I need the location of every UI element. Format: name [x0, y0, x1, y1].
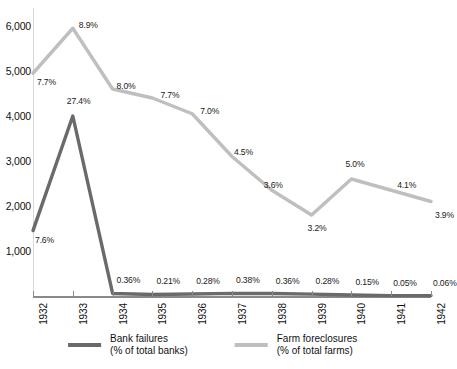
x-axis-tick-mark: [391, 291, 392, 296]
bank-data-label: 0.28%: [316, 276, 340, 286]
farm-data-label: 3.9%: [435, 210, 454, 220]
x-axis-tick-mark: [113, 291, 114, 296]
x-axis-tick-mark: [272, 291, 273, 296]
x-axis-tick: 1938: [277, 303, 288, 325]
x-axis-tick-mark: [152, 291, 153, 296]
legend-item[interactable]: Farm foreclosures(% of total farms): [235, 333, 358, 358]
legend-color-swatch: [68, 343, 101, 347]
x-axis-tick: 1934: [118, 303, 129, 325]
bank-data-label: 0.38%: [236, 275, 260, 285]
x-axis-tick-mark: [312, 291, 313, 296]
x-axis-tick-mark: [351, 291, 352, 296]
legend-color-swatch: [235, 343, 268, 347]
farm-data-label: 7.7%: [37, 77, 56, 87]
farm-data-label: 4.1%: [397, 180, 416, 190]
x-axis-tick-mark: [431, 291, 432, 296]
bank-data-label: 0.06%: [433, 278, 457, 288]
bank-data-label: 0.36%: [276, 276, 300, 286]
farm-data-label: 8.9%: [79, 20, 98, 30]
farm-data-label: 3.2%: [308, 223, 327, 233]
x-axis-tick: 1935: [157, 303, 168, 325]
bank-data-label: 7.6%: [35, 235, 54, 245]
x-axis-tick: 1932: [38, 303, 49, 325]
legend-series-unit: (% of total farms): [277, 345, 358, 357]
legend-label: Bank failures(% of total banks): [110, 333, 188, 358]
bank-data-label: 0.15%: [355, 277, 379, 287]
x-axis-tick-mark: [73, 291, 74, 296]
x-axis-tick: 1937: [237, 303, 248, 325]
farm-data-label: 8.0%: [117, 81, 136, 91]
farm-data-label: 4.5%: [234, 147, 253, 157]
chart-legend: Bank failures(% of total banks)Farm fore…: [0, 333, 438, 369]
legend-series-unit: (% of total banks): [110, 345, 188, 357]
farm-data-label: 5.0%: [345, 159, 364, 169]
bank-data-label: 0.36%: [117, 275, 141, 285]
bank-data-label: 0.21%: [156, 276, 180, 286]
x-axis-tick: 1942: [436, 303, 447, 325]
bank-data-label: 0.28%: [196, 276, 220, 286]
x-axis-tick-mark: [192, 291, 193, 296]
farm-data-label: 3.6%: [264, 180, 283, 190]
x-axis-tick: 1939: [317, 303, 328, 325]
legend-item[interactable]: Bank failures(% of total banks): [68, 333, 188, 358]
x-axis-tick: 1936: [197, 303, 208, 325]
farm-data-label: 7.0%: [200, 106, 219, 116]
legend-label: Farm foreclosures(% of total farms): [277, 333, 358, 358]
x-axis-tick: 1941: [396, 303, 407, 325]
bank-data-label: 27.4%: [67, 96, 91, 106]
legend-series-name: Farm foreclosures: [277, 333, 358, 345]
x-axis-tick: 1940: [356, 303, 367, 325]
x-axis-tick-mark: [232, 291, 233, 296]
bank-data-label: 0.05%: [393, 278, 417, 288]
legend-series-name: Bank failures: [110, 333, 188, 345]
x-axis-tick: 1933: [78, 303, 89, 325]
x-axis-tick-mark: [33, 291, 34, 296]
farm-data-label: 7.7%: [160, 90, 179, 100]
